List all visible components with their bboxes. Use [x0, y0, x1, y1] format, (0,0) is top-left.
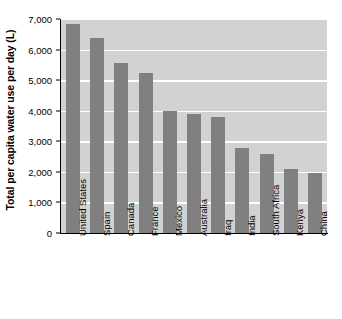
- x-tick-label: South Africa: [270, 185, 281, 236]
- x-axis-tick-labels: United StatesSpainCanadaFranceMexicoAust…: [61, 234, 327, 319]
- y-tick-label: 7,000: [28, 14, 52, 25]
- y-axis-title: Total per capita water use per day (L): [0, 0, 20, 240]
- x-tick-label: Canada: [125, 203, 136, 236]
- bar: [211, 117, 225, 233]
- y-axis-title-text: Total per capita water use per day (L): [4, 30, 16, 211]
- x-tick-label: China: [318, 211, 329, 236]
- y-tick-label: 4,000: [28, 105, 52, 116]
- x-tick-label: Mexico: [173, 206, 184, 236]
- y-tick-label: 5,000: [28, 75, 52, 86]
- y-tick-label: 0: [47, 228, 52, 239]
- gridline: [61, 19, 327, 20]
- x-tick-label: Kenya: [294, 209, 305, 236]
- x-tick-label: Australia: [198, 199, 209, 236]
- bar: [90, 38, 104, 233]
- x-tick-label: Spain: [101, 212, 112, 236]
- x-tick-label: India: [246, 215, 257, 236]
- x-tick-label: France: [149, 206, 160, 236]
- bar-chart-figure: Total per capita water use per day (L) 0…: [0, 0, 342, 319]
- y-tick-label: 1,000: [28, 197, 52, 208]
- x-tick-label: Iraq: [222, 220, 233, 236]
- plot-area: [61, 19, 327, 233]
- y-tick-label: 3,000: [28, 136, 52, 147]
- y-tick-label: 2,000: [28, 166, 52, 177]
- y-tick-label: 6,000: [28, 44, 52, 55]
- y-axis-tick-labels: 01,0002,0003,0004,0005,0006,0007,000: [18, 14, 60, 234]
- x-tick-label: United States: [77, 179, 88, 236]
